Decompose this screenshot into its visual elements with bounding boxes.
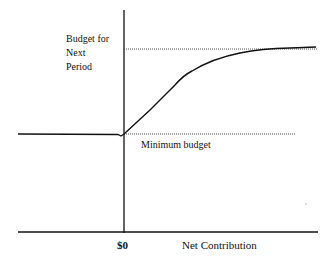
x-origin-label: $0 xyxy=(117,238,128,252)
budget-curve-flat xyxy=(18,134,124,136)
budget-curve xyxy=(124,47,316,134)
speck xyxy=(305,203,306,204)
y-axis-label-line-2: Next xyxy=(66,46,109,60)
minimum-budget-label: Minimum budget xyxy=(141,138,211,152)
diagram-canvas xyxy=(0,0,333,267)
y-axis-label-line-3: Period xyxy=(66,60,109,74)
y-axis-label: Budget for Next Period xyxy=(66,32,109,74)
y-axis-label-line-1: Budget for xyxy=(66,32,109,46)
x-axis-label: Net Contribution xyxy=(182,238,257,252)
